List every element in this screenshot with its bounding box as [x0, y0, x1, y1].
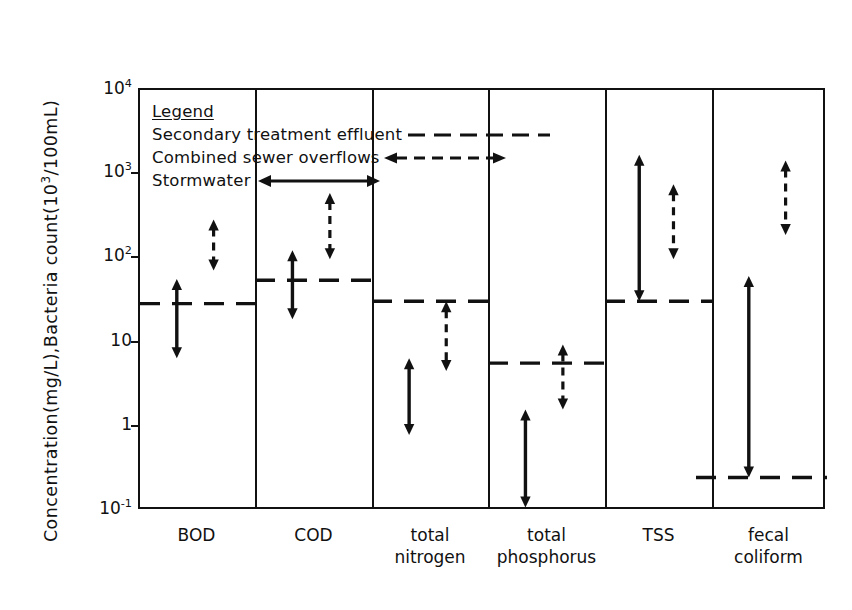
- panel-divider-4: [605, 90, 607, 507]
- y-tick-mark-1e3: [131, 172, 140, 174]
- legend-entry-stormwater: Stormwater: [152, 169, 402, 192]
- y-tick-1e-1: 10-1: [68, 500, 132, 517]
- x-label-tss: TSS: [605, 524, 712, 546]
- x-label-bod: BOD: [138, 524, 255, 546]
- legend-title-row: Legend: [152, 100, 402, 123]
- y-tick-mark-1e2: [131, 256, 140, 258]
- legend: Legend Secondary treatment effluent Comb…: [152, 100, 402, 192]
- stormwater-range-arrow-TSS: [634, 155, 644, 301]
- x-label-tss-line1: TSS: [605, 524, 712, 546]
- cso-range-arrow-BOD: [208, 219, 218, 270]
- x-label-cod: COD: [255, 524, 372, 546]
- x-label-total-phosphorus-line1: total: [488, 524, 605, 546]
- y-tick-1e2: 102: [68, 247, 132, 264]
- y-tick-10: 10: [68, 332, 132, 349]
- stormwater-range-arrow-BOD: [172, 279, 182, 358]
- x-label-fecal-coliform-line2: coliform: [712, 546, 825, 568]
- x-label-total-phosphorus: total phosphorus: [488, 524, 605, 568]
- x-label-total-nitrogen-line1: total: [372, 524, 488, 546]
- chart-figure: Concentration(mg/L),Bacteria count(103/1…: [0, 0, 852, 610]
- legend-title: Legend: [152, 102, 214, 121]
- y-tick-1e3: 103: [68, 163, 132, 180]
- stormwater-range-arrow-total-nitrogen: [404, 358, 414, 435]
- cso-range-arrow-fecal-coliform: [780, 161, 790, 235]
- legend-label-secondary-effluent: Secondary treatment effluent: [152, 125, 402, 144]
- x-label-cod-line1: COD: [255, 524, 372, 546]
- legend-label-combined-sewer-overflows: Combined sewer overflows: [152, 148, 380, 167]
- x-label-total-phosphorus-line2: phosphorus: [488, 546, 605, 568]
- cso-range-arrow-total-nitrogen: [441, 301, 451, 371]
- stormwater-range-arrow-total-phosphorus: [520, 410, 530, 508]
- legend-swatch-dashed-line: [404, 123, 554, 146]
- x-label-total-nitrogen-line2: nitrogen: [372, 546, 488, 568]
- y-tick-mark-1: [131, 425, 140, 427]
- panel-divider-5: [712, 90, 714, 507]
- y-tick-mark-10: [131, 341, 140, 343]
- legend-entry-combined-sewer-overflows: Combined sewer overflows: [152, 146, 402, 169]
- cso-range-arrow-COD: [325, 193, 335, 259]
- cso-range-arrow-TSS: [668, 184, 678, 259]
- y-tick-1e4: 104: [68, 80, 132, 97]
- y-axis-tick-labels: 104 103 102 10 1 10-1: [52, 0, 132, 610]
- x-label-fecal-coliform: fecal coliform: [712, 524, 825, 568]
- stormwater-range-arrow-fecal-coliform: [744, 276, 754, 478]
- x-label-total-nitrogen: total nitrogen: [372, 524, 488, 568]
- x-label-fecal-coliform-line1: fecal: [712, 524, 825, 546]
- legend-swatch-solid-arrow: [258, 169, 380, 192]
- legend-swatch-dashed-arrow: [384, 146, 506, 169]
- y-tick-1: 1: [68, 416, 132, 433]
- legend-label-stormwater: Stormwater: [152, 171, 251, 190]
- legend-entry-secondary-effluent: Secondary treatment effluent: [152, 123, 402, 146]
- stormwater-range-arrow-COD: [287, 250, 297, 319]
- x-label-bod-line1: BOD: [138, 524, 255, 546]
- cso-range-arrow-total-phosphorus: [558, 344, 568, 409]
